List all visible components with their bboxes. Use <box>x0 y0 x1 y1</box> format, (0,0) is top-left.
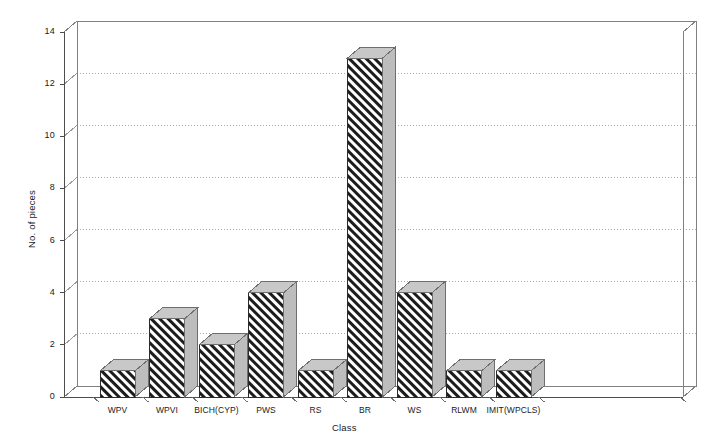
bar-side-face <box>284 282 297 397</box>
chart-screenshot: 02468101214 WPVWPVIBICH(CYP)PWSRSBRWSRLW… <box>0 0 712 443</box>
bar-front-face <box>348 58 383 397</box>
bar-side-face <box>432 282 445 397</box>
bar-front-face <box>100 371 135 397</box>
y-axis-tick-label: 10 <box>31 131 55 140</box>
bar <box>199 334 247 397</box>
bar <box>348 47 396 397</box>
bars-group <box>100 47 544 397</box>
bar <box>100 360 148 397</box>
x-axis-tick <box>93 397 99 402</box>
bar-side-face <box>383 47 396 397</box>
bar-chart-svg <box>0 0 712 443</box>
bar <box>150 308 198 397</box>
gridline-depth-connector <box>64 282 77 293</box>
x-axis-tick <box>192 397 198 402</box>
gridline-depth-connector <box>64 177 77 188</box>
bar <box>447 360 495 397</box>
y-axis-tick-label: 14 <box>31 27 55 36</box>
bar <box>249 282 297 397</box>
left-top-depth-edge <box>64 21 77 32</box>
gridline-depth-connector <box>64 125 77 136</box>
y-axis-tick-label: 4 <box>31 288 55 297</box>
gridline-depth-connector <box>64 73 77 84</box>
bar <box>496 360 544 397</box>
x-axis-tick <box>440 397 446 402</box>
bar-front-face <box>298 371 333 397</box>
y-axis-tick-label: 12 <box>31 79 55 88</box>
x-axis-tick <box>680 397 686 402</box>
x-axis-tick <box>291 397 297 402</box>
x-axis-title: Class <box>332 422 357 433</box>
x-axis-tick <box>143 397 149 402</box>
x-axis-tick <box>390 397 396 402</box>
x-axis-tick <box>489 397 495 402</box>
y-axis-tick-label: 2 <box>31 340 55 349</box>
bar-front-face <box>199 345 234 397</box>
y-axis-tick-label: 0 <box>31 392 55 401</box>
y-axis-title: No. of pieces <box>26 190 37 248</box>
chart-plot-area: 02468101214 WPVWPVIBICH(CYP)PWSRSBRWSRLW… <box>0 0 712 443</box>
x-axis-tick <box>341 397 347 402</box>
bar <box>298 360 346 397</box>
x-axis-tick <box>242 397 248 402</box>
bar-front-face <box>447 371 482 397</box>
bar <box>397 282 445 397</box>
bar-front-face <box>249 293 284 397</box>
right-top-depth-edge <box>683 21 696 32</box>
bar-side-face <box>185 308 198 397</box>
gridline-depth-connector <box>64 334 77 345</box>
bar-front-face <box>150 319 185 397</box>
bar-front-face <box>496 371 531 397</box>
bar-front-face <box>397 293 432 397</box>
gridline-depth-connector <box>64 230 77 241</box>
x-axis-tick <box>539 397 545 402</box>
x-axis-tick-label: IMIT(WPCLS) <box>471 406 557 415</box>
